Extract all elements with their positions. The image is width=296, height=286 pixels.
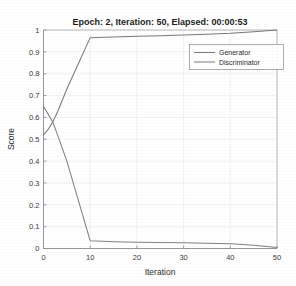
y-tick-label: 0 xyxy=(35,244,39,253)
y-tick-label: 0.2 xyxy=(29,201,39,210)
chart-legend[interactable]: Generator Discriminator xyxy=(190,45,284,70)
y-tick-label: 0.7 xyxy=(29,91,39,100)
x-tick-label: 50 xyxy=(273,253,281,262)
y-tick-label: 0.1 xyxy=(29,222,39,231)
y-tick-label: 0.6 xyxy=(29,113,39,122)
chart-figure: Epoch: 2, Iteration: 50, Elapsed: 00:00:… xyxy=(0,0,296,286)
legend-label-generator: Generator xyxy=(219,49,251,56)
y-tick-label: 0.8 xyxy=(29,69,39,78)
x-tick-label: 40 xyxy=(226,253,234,262)
y-tick-label: 1 xyxy=(35,26,39,35)
line-chart: Epoch: 2, Iteration: 50, Elapsed: 00:00:… xyxy=(0,0,296,286)
y-tick-label: 0.3 xyxy=(29,179,39,188)
y-tick-label: 0.9 xyxy=(29,48,39,57)
x-axis-label: Iteration xyxy=(145,267,176,277)
chart-title: Epoch: 2, Iteration: 50, Elapsed: 00:00:… xyxy=(72,17,247,27)
y-axis-label: Score xyxy=(6,128,16,150)
y-tick-label: 0.4 xyxy=(29,157,39,166)
x-tick-label: 20 xyxy=(133,253,141,262)
x-tick-label: 10 xyxy=(86,253,94,262)
chart-background xyxy=(0,0,296,286)
legend-label-discriminator: Discriminator xyxy=(219,59,261,66)
x-tick-label: 0 xyxy=(41,253,45,262)
x-tick-label: 30 xyxy=(179,253,187,262)
y-tick-label: 0.5 xyxy=(29,135,39,144)
